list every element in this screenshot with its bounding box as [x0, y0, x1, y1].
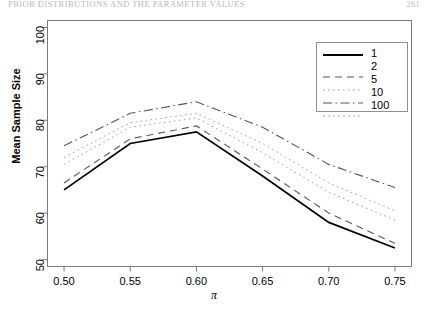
- x-tick-label: 0.75: [365, 275, 425, 287]
- legend-key-2: [323, 65, 363, 67]
- figure-page: PRIOR DISTRIBUTIONS AND THE PARAMETER VA…: [0, 0, 428, 311]
- chart-legend: 12510100: [316, 42, 408, 112]
- legend-key-10: [323, 91, 363, 93]
- x-tick-label: 0.50: [34, 275, 94, 287]
- series-line-100: [64, 113, 395, 210]
- x-tick-label: 0.70: [299, 275, 359, 287]
- series-line-2: [64, 126, 395, 243]
- legend-label-5: 5: [371, 73, 377, 85]
- x-tick-label: 0.55: [100, 275, 160, 287]
- series-line-5: [64, 118, 395, 220]
- x-axis-ticks: [64, 267, 395, 272]
- series-line-1: [64, 132, 395, 248]
- y-tick-label: 70: [34, 166, 46, 206]
- legend-item-10: 10: [317, 87, 409, 101]
- data-series-group: [64, 102, 395, 248]
- legend-item-1: 1: [317, 48, 409, 62]
- chart-figure: 5060708090100 0.500.550.600.650.700.75 M…: [0, 0, 428, 311]
- y-tick-label: 100: [34, 26, 46, 66]
- y-tick-label: 60: [34, 212, 46, 252]
- legend-key-5: [323, 78, 363, 80]
- legend-key-100: [323, 104, 363, 106]
- x-tick-label: 0.65: [233, 275, 293, 287]
- legend-key-1: [323, 54, 363, 58]
- legend-label-1: 1: [371, 47, 377, 59]
- y-tick-label: 80: [34, 119, 46, 159]
- x-tick-label: 0.60: [166, 275, 226, 287]
- x-axis-title: π: [0, 288, 428, 303]
- legend-label-100: 100: [371, 99, 389, 111]
- legend-item-100: 100: [317, 100, 409, 114]
- legend-item-2: 2: [317, 61, 409, 75]
- y-axis-title: Mean Sample Size: [10, 56, 22, 176]
- legend-label-10: 10: [371, 86, 383, 98]
- legend-label-2: 2: [371, 60, 377, 72]
- y-tick-label: 90: [34, 73, 46, 113]
- legend-item-5: 5: [317, 74, 409, 88]
